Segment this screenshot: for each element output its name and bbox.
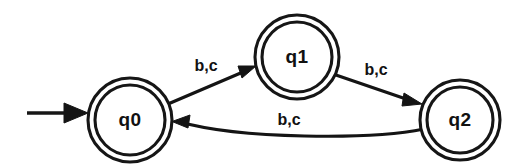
state-q1[interactable]: q1: [255, 15, 339, 99]
state-q2-label: q2: [449, 109, 472, 130]
state-q2[interactable]: q2: [420, 80, 500, 160]
state-q0-label: q0: [119, 109, 142, 130]
transition-q2-to-q0-arrowhead: [172, 115, 190, 128]
state-q1-label: q1: [286, 46, 309, 67]
transition-q0-to-q1-path: [168, 72, 243, 104]
transition-q0-to-q1-label: b,c: [194, 57, 217, 74]
state-q0[interactable]: q0: [88, 78, 172, 162]
transition-q2-to-q0-label: b,c: [277, 111, 300, 128]
transition-q2-to-q0-path: [180, 122, 424, 136]
transition-q0-to-q1-arrowhead: [238, 66, 256, 78]
transition-q1-to-q2-label: b,c: [364, 61, 387, 78]
transition-q1-to-q2-arrowhead: [402, 93, 422, 106]
start-arrow: [27, 103, 88, 123]
fsa-diagram-svg: q0 q1 q2 b,c b,c b,c: [0, 0, 516, 164]
fsa-diagram-canvas: q0 q1 q2 b,c b,c b,c: [0, 0, 516, 164]
transition-q1-to-q2: [333, 74, 422, 106]
start-arrow-head: [64, 103, 88, 123]
